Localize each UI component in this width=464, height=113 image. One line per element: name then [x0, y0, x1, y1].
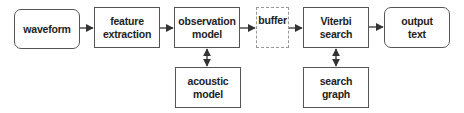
edges-layer: [0, 0, 464, 113]
